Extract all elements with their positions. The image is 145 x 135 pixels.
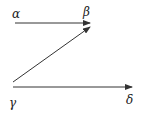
node-label-alpha: α — [12, 7, 20, 21]
node-label-delta: δ — [126, 93, 133, 107]
arrow-diagram: α β γ δ — [0, 0, 145, 135]
node-label-beta: β — [82, 5, 90, 19]
edge-gamma-beta — [13, 27, 90, 82]
node-label-gamma: γ — [9, 96, 17, 110]
